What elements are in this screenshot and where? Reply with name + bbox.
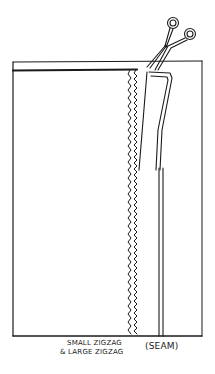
sewing-diagram bbox=[0, 0, 215, 374]
seam-allowance bbox=[139, 72, 172, 170]
zigzag-stitches bbox=[128, 70, 137, 334]
seam-lines bbox=[159, 168, 163, 336]
scissors-icon bbox=[147, 18, 196, 71]
fabric-panel bbox=[13, 61, 202, 336]
seam-label: (SEAM) bbox=[145, 342, 179, 350]
zigzag-label-line2: & LARGE ZIGZAG bbox=[60, 348, 123, 356]
zigzag-label-line1: SMALL ZIGZAG bbox=[67, 339, 122, 347]
